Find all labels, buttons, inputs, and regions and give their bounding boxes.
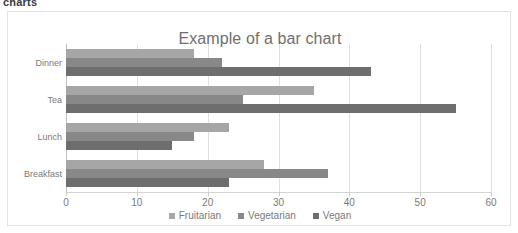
x-tick-mark bbox=[349, 192, 350, 196]
chart-legend[interactable]: FruitarianVegetarianVegan bbox=[8, 210, 512, 221]
chart-container[interactable]: Example of a bar chart DinnerTeaLunchBre… bbox=[7, 11, 511, 226]
page-heading: charts bbox=[3, 0, 37, 8]
x-tick-mark bbox=[420, 192, 421, 196]
x-tick-mark bbox=[137, 192, 138, 196]
bar-group-lunch bbox=[66, 123, 491, 150]
legend-item-vegetarian[interactable]: Vegetarian bbox=[238, 210, 296, 221]
x-axis-tick-label: 40 bbox=[344, 197, 355, 209]
x-axis-tick-labels: 0102030405060 bbox=[66, 197, 491, 211]
legend-swatch-icon bbox=[313, 213, 319, 219]
bar-tea-fruitarian[interactable] bbox=[66, 86, 314, 95]
x-tick-mark bbox=[66, 192, 67, 196]
bar-dinner-fruitarian[interactable] bbox=[66, 49, 194, 58]
y-axis-label-tea: Tea bbox=[47, 95, 62, 105]
bar-tea-vegetarian[interactable] bbox=[66, 95, 243, 104]
x-axis-tick-label: 0 bbox=[63, 197, 69, 209]
bar-breakfast-vegan[interactable] bbox=[66, 178, 229, 187]
y-axis-label-lunch: Lunch bbox=[37, 132, 62, 142]
x-axis-tick-label: 50 bbox=[415, 197, 426, 209]
bar-tea-vegan[interactable] bbox=[66, 104, 456, 113]
x-axis-tick-label: 60 bbox=[485, 197, 496, 209]
x-axis-tick-label: 30 bbox=[273, 197, 284, 209]
bar-group-dinner bbox=[66, 49, 491, 76]
legend-swatch-icon bbox=[238, 213, 244, 219]
bar-group-tea bbox=[66, 86, 491, 113]
x-gridline bbox=[491, 44, 492, 192]
page-root: charts Example of a bar chart DinnerTeaL… bbox=[0, 0, 518, 233]
x-axis-tick-label: 20 bbox=[202, 197, 213, 209]
x-tick-mark bbox=[279, 192, 280, 196]
bar-lunch-vegetarian[interactable] bbox=[66, 132, 194, 141]
bar-lunch-vegan[interactable] bbox=[66, 141, 172, 150]
legend-swatch-icon bbox=[169, 213, 175, 219]
y-axis-category-labels: DinnerTeaLunchBreakfast bbox=[8, 44, 62, 192]
legend-label: Vegetarian bbox=[248, 210, 296, 221]
legend-label: Fruitarian bbox=[179, 210, 221, 221]
bar-dinner-vegetarian[interactable] bbox=[66, 58, 222, 67]
legend-item-vegan[interactable]: Vegan bbox=[313, 210, 351, 221]
bar-lunch-fruitarian[interactable] bbox=[66, 123, 229, 132]
plot-area bbox=[66, 44, 491, 192]
x-tick-mark bbox=[491, 192, 492, 196]
x-tick-mark bbox=[208, 192, 209, 196]
y-axis-label-breakfast: Breakfast bbox=[24, 169, 62, 179]
y-axis-label-dinner: Dinner bbox=[35, 58, 62, 68]
legend-label: Vegan bbox=[323, 210, 351, 221]
bar-breakfast-vegetarian[interactable] bbox=[66, 169, 328, 178]
legend-item-fruitarian[interactable]: Fruitarian bbox=[169, 210, 221, 221]
x-axis-tick-label: 10 bbox=[131, 197, 142, 209]
bar-breakfast-fruitarian[interactable] bbox=[66, 160, 264, 169]
bar-group-breakfast bbox=[66, 160, 491, 187]
bar-dinner-vegan[interactable] bbox=[66, 67, 371, 76]
